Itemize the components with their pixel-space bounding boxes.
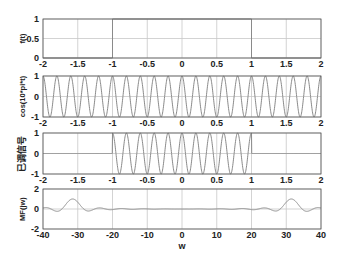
y-axis-label: MF(jw) — [18, 197, 27, 221]
y-tick-label: 1 — [34, 71, 39, 81]
y-tick-label: 0 — [34, 204, 39, 214]
x-tick-label: 20 — [246, 230, 256, 240]
y-tick-label: -1 — [31, 112, 39, 122]
x-tick-label: -0.5 — [139, 118, 155, 128]
x-tick-label: 0 — [179, 230, 184, 240]
x-axis-label: w — [177, 241, 186, 251]
subplot-1: -2-1.5-1-0.500.511.5200.51f(t) — [18, 14, 324, 69]
y-axis-label: cos(10*pi*t) — [18, 75, 27, 117]
y-tick-label: 2 — [34, 184, 39, 194]
x-tick-label: 0 — [179, 175, 184, 185]
x-tick-label: -10 — [141, 230, 154, 240]
x-tick-label: 40 — [316, 230, 326, 240]
x-tick-label: -1.5 — [70, 175, 86, 185]
y-tick-label: 0 — [34, 53, 39, 63]
x-tick-label: 1.5 — [280, 59, 293, 69]
x-tick-label: 0.5 — [210, 118, 223, 128]
y-tick-label: 1 — [34, 128, 39, 138]
y-tick-label: 0 — [34, 149, 39, 159]
y-tick-label: 0 — [34, 92, 39, 102]
x-tick-label: 2 — [318, 118, 323, 128]
y-tick-label: -2 — [31, 224, 39, 234]
y-tick-label: -1 — [31, 169, 39, 179]
x-tick-label: 1 — [249, 175, 254, 185]
x-tick-label: 10 — [212, 230, 222, 240]
x-tick-label: -0.5 — [139, 59, 155, 69]
x-tick-label: -1 — [108, 175, 116, 185]
x-tick-label: 1 — [249, 118, 254, 128]
x-tick-label: 1 — [249, 59, 254, 69]
x-tick-label: 0.5 — [210, 175, 223, 185]
y-axis-label: f(t) — [18, 33, 27, 43]
x-tick-label: 2 — [318, 59, 323, 69]
x-tick-label: -1.5 — [70, 118, 86, 128]
x-tick-label: -2 — [39, 175, 47, 185]
x-tick-label: -30 — [71, 230, 84, 240]
x-tick-label: 30 — [281, 230, 291, 240]
x-tick-label: 0.5 — [210, 59, 223, 69]
x-tick-label: 2 — [318, 175, 323, 185]
subplot-3: -2-1.5-1-0.500.511.52-101已调信号 — [16, 128, 324, 185]
x-tick-label: -0.5 — [139, 175, 155, 185]
x-tick-label: -1 — [108, 118, 116, 128]
x-tick-label: -1 — [108, 59, 116, 69]
figure: -2-1.5-1-0.500.511.5200.51f(t)-2-1.5-1-0… — [0, 0, 337, 263]
subplot-4: -40-30-20-10010203040-202MF(jw)w — [18, 184, 326, 251]
y-axis-label: 已调信号 — [16, 136, 27, 172]
x-tick-label: 0 — [179, 118, 184, 128]
y-tick-label: 1 — [34, 14, 39, 24]
x-tick-label: -1.5 — [70, 59, 86, 69]
x-tick-label: -2 — [39, 59, 47, 69]
x-tick-label: -20 — [106, 230, 119, 240]
subplot-2: -2-1.5-1-0.500.511.52-101cos(10*pi*t) — [18, 71, 324, 128]
x-tick-label: 0 — [179, 59, 184, 69]
y-tick-label: 0.5 — [26, 34, 39, 44]
x-tick-label: 1.5 — [280, 118, 293, 128]
x-tick-label: 1.5 — [280, 175, 293, 185]
x-tick-label: -2 — [39, 118, 47, 128]
